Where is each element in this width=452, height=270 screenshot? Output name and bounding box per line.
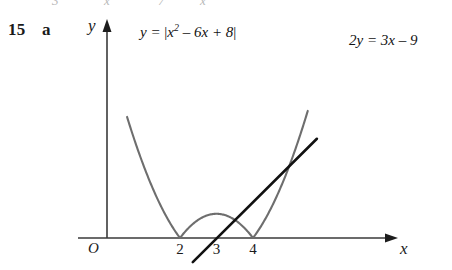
x-axis-label: x xyxy=(400,239,408,259)
curve-eq-close-bar: | xyxy=(233,24,236,40)
arrow-up-icon xyxy=(103,19,112,32)
curve-eq-rest: – 6x + 8 xyxy=(179,24,233,40)
line-eq-text: 2y = 3x – 9 xyxy=(349,32,417,48)
figure-page: 3 x 7 x 15 a y x O 2 3 4 y = |x2 – 6x + … xyxy=(0,0,452,270)
y-axis-label: y xyxy=(88,16,96,36)
curve-equation-label: y = |x2 – 6x + 8| xyxy=(140,22,236,41)
curve-eq-lhs: y = xyxy=(140,24,164,40)
x-tick-label-2: 2 xyxy=(172,241,188,258)
line-equation-label: 2y = 3x – 9 xyxy=(349,32,417,49)
curve-eq-base: x xyxy=(167,24,174,40)
arrow-right-icon xyxy=(385,233,398,242)
origin-label: O xyxy=(88,240,99,257)
x-tick-label-4: 4 xyxy=(245,241,261,258)
x-tick-label-3: 3 xyxy=(209,241,225,258)
